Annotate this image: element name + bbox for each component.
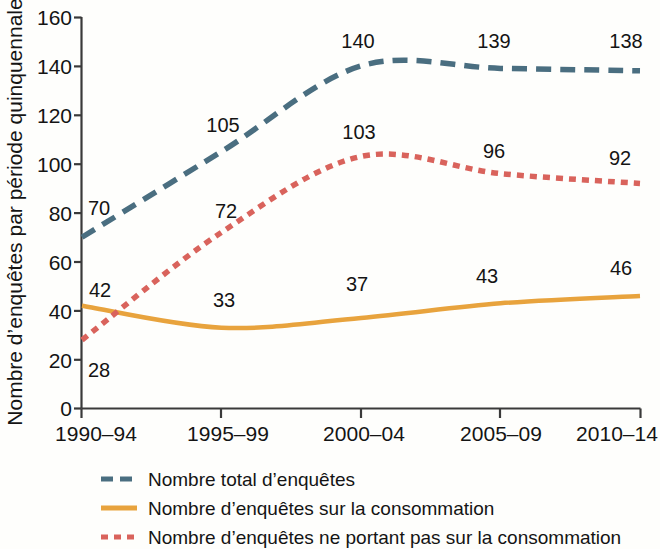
legend: Nombre total d’enquêtes Nombre d’enquête… (101, 469, 621, 548)
data-label-total-0: 70 (88, 197, 110, 219)
x-tick-label-4: 2010–14 (576, 422, 658, 445)
y-tick-label-80: 80 (49, 202, 72, 225)
y-tick-label-120: 120 (37, 104, 72, 127)
y-tick-label-140: 140 (37, 55, 72, 78)
y-tick-label-160: 160 (37, 6, 72, 29)
y-tick-label-0: 0 (60, 397, 72, 420)
legend-label-consumption: Nombre d’enquêtes sur la consommation (148, 498, 494, 519)
data-label-nonconsumption-2: 103 (342, 121, 375, 143)
data-label-nonconsumption-1: 72 (215, 200, 237, 222)
x-tick-label-0: 1990–94 (55, 422, 137, 445)
data-label-consumption-2: 37 (346, 273, 368, 295)
legend-item-total[interactable]: Nombre total d’enquêtes (101, 469, 355, 490)
series-line-1 (82, 296, 640, 328)
data-label-total-4: 138 (609, 30, 642, 52)
series-layer (82, 60, 640, 340)
x-tick-label-3: 2005–09 (460, 422, 542, 445)
y-tick-label-100: 100 (37, 153, 72, 176)
y-tick-label-60: 60 (49, 251, 72, 274)
data-label-nonconsumption-0: 28 (88, 359, 110, 381)
legend-item-non-consumption[interactable]: Nombre d’enquêtes ne portant pas sur la … (101, 527, 621, 548)
x-tick-label-2: 2000–04 (323, 422, 405, 445)
series-line-2 (82, 154, 640, 340)
legend-label-non-consumption: Nombre d’enquêtes ne portant pas sur la … (148, 527, 621, 548)
y-axis-title: Nombre d’enquêtes par période quinquenna… (3, 0, 26, 426)
legend-item-consumption[interactable]: Nombre d’enquêtes sur la consommation (101, 498, 494, 519)
data-label-consumption-4: 46 (610, 257, 632, 279)
data-label-nonconsumption-4: 92 (609, 147, 631, 169)
x-tick-label-1: 1995–99 (187, 422, 269, 445)
chart-container: Nombre d’enquêtes par période quinquenna… (0, 0, 660, 549)
data-label-consumption-3: 43 (476, 265, 498, 287)
y-tick-label-40: 40 (49, 300, 72, 323)
y-tick-label-20: 20 (49, 349, 72, 372)
data-label-nonconsumption-3: 96 (483, 140, 505, 162)
line-chart: Nombre d’enquêtes par période quinquenna… (0, 0, 660, 549)
data-label-consumption-1: 33 (213, 289, 235, 311)
data-label-total-3: 139 (477, 30, 510, 52)
series-line-0 (82, 60, 640, 237)
legend-label-total: Nombre total d’enquêtes (148, 469, 355, 490)
data-label-total-2: 140 (341, 30, 374, 52)
data-label-total-1: 105 (206, 114, 239, 136)
data-label-consumption-0: 42 (89, 279, 111, 301)
